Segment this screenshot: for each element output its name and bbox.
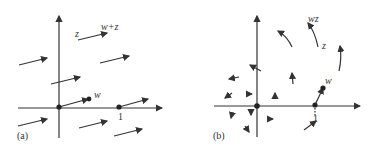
label-w-a: w	[94, 89, 101, 100]
label-w-plus-z: w+z	[101, 21, 118, 32]
origin-point-a	[56, 104, 61, 109]
panel-a	[18, 16, 162, 138]
caption-a: (a)	[17, 130, 28, 142]
label-one-a: 1	[118, 111, 123, 122]
label-z-a: z	[74, 28, 79, 39]
one-point-a	[116, 104, 121, 109]
translation-vectors	[18, 33, 148, 136]
origin-point-b	[254, 103, 260, 109]
label-w-b: w	[325, 75, 332, 86]
w-point-b	[320, 85, 325, 90]
label-one-b: 1	[313, 113, 318, 124]
figure: z w+z w 1 (a) wz z w 1 (b	[0, 0, 374, 151]
caption-b: (b)	[213, 130, 225, 142]
label-wz: wz	[308, 13, 319, 24]
panel-b	[214, 16, 360, 137]
label-z-b: z	[321, 40, 326, 51]
one-point-b	[312, 102, 317, 107]
w-point-a	[87, 97, 92, 102]
